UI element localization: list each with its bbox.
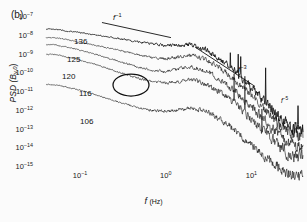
y-tick-label: 10−10	[7, 67, 33, 77]
y-tick-label: 10−11	[7, 86, 33, 96]
slope-annotation: f−1	[113, 12, 122, 22]
curve-label: 120	[62, 72, 75, 81]
spectral-curves	[46, 29, 303, 181]
x-tick-label: 100	[153, 170, 179, 180]
power-law-reference-lines	[102, 23, 255, 87]
curve-label: 136	[74, 37, 87, 46]
spectrum-curve	[46, 54, 303, 162]
y-tick-label: 10−12	[7, 105, 33, 115]
x-tick-label: 10−1	[67, 170, 93, 180]
spectrum-plot-canvas	[0, 0, 307, 222]
spectrum-curve	[46, 84, 303, 180]
curve-label: 116	[79, 89, 92, 98]
y-tick-label: 10−8	[7, 30, 33, 40]
slope-annotation: f−5	[281, 96, 288, 104]
reference-line	[102, 23, 171, 38]
x-axis-title-symbol: f	[144, 196, 147, 206]
y-tick-label: 10−15	[7, 161, 33, 171]
curve-label: 125	[67, 55, 80, 64]
slope-annotation: f−3	[238, 64, 247, 74]
circled-feature-ellipse	[113, 74, 149, 96]
y-tick-label: 10−14	[7, 142, 33, 152]
y-tick-label: 10−7	[7, 11, 33, 21]
y-tick-label: 10−13	[7, 124, 33, 134]
x-axis-title-unit: (Hz)	[149, 198, 162, 205]
y-tick-label: 10−9	[7, 49, 33, 59]
x-axis-title: f (Hz)	[0, 196, 307, 206]
x-tick-label: 101	[238, 170, 264, 180]
y-axis-title-close: )	[8, 64, 18, 67]
curve-label: 106	[80, 117, 93, 126]
figure-panel-b: (b) PSD (By,0) f (Hz) 10−710−810−910−101…	[0, 0, 307, 222]
